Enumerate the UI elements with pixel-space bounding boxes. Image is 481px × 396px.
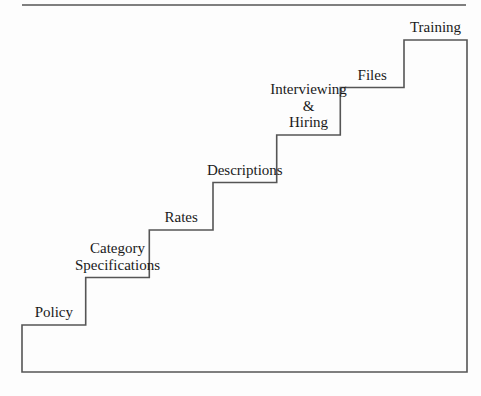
step-label-line: Specifications — [75, 257, 160, 273]
step-label-line: Interviewing — [270, 81, 347, 97]
step-labels: PolicyCategorySpecificationsRatesDescrip… — [35, 19, 462, 320]
step-label-6: Files — [358, 67, 387, 83]
step-label-3: Rates — [165, 209, 198, 225]
step-label-line: Descriptions — [207, 162, 283, 178]
step-label-2: CategorySpecifications — [75, 240, 160, 273]
step-label-1: Policy — [35, 304, 74, 320]
step-label-line: & — [303, 98, 315, 114]
step-label-line: Hiring — [289, 114, 329, 130]
step-label-line: Category — [90, 240, 145, 256]
step-label-line: Training — [410, 19, 462, 35]
step-label-line: Policy — [35, 304, 74, 320]
step-label-line: Files — [358, 67, 387, 83]
step-label-4: Descriptions — [207, 162, 283, 178]
staircase-diagram: PolicyCategorySpecificationsRatesDescrip… — [0, 0, 481, 396]
step-label-line: Rates — [165, 209, 198, 225]
step-label-7: Training — [410, 19, 462, 35]
step-label-5: Interviewing&Hiring — [270, 81, 347, 130]
diagram-canvas: PolicyCategorySpecificationsRatesDescrip… — [0, 0, 481, 396]
staircase-outline — [22, 40, 467, 372]
